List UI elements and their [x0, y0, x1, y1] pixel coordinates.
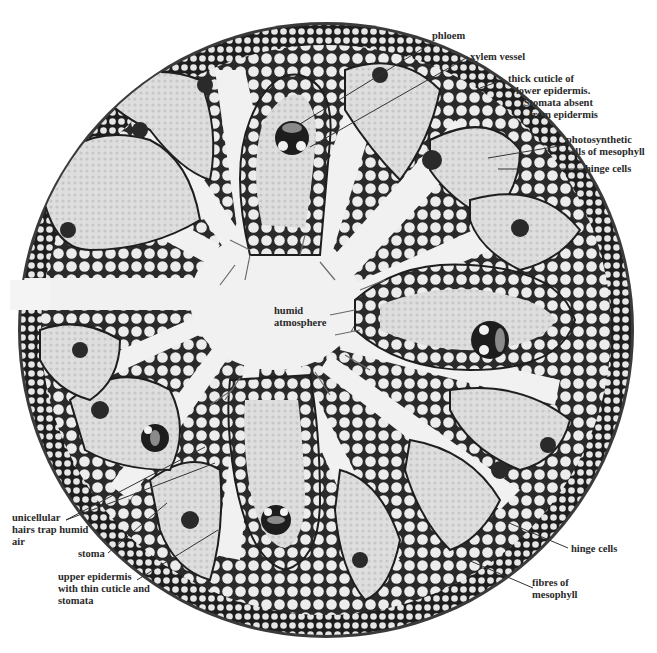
label-unicellular-hairs: unicellular hairs trap humid air	[12, 512, 88, 548]
label-upper-epidermis: upper epidermis with thin cuticle and st…	[58, 571, 150, 607]
label-humid-atmosphere: humid atmosphere	[274, 305, 326, 329]
label-stoma: stoma	[78, 548, 105, 560]
label-hinge-cells-top: hinge cells	[585, 163, 631, 175]
label-photosynthetic-cells: photosynthetic cells of mesophyll	[566, 134, 645, 158]
label-hinge-cells-bottom: hinge cells	[571, 543, 617, 555]
vascular-bundle-right	[471, 321, 509, 359]
label-xylem-vessel: xylem vessel	[470, 51, 525, 63]
leaf-cross-section-figure: phloem xylem vessel thick cuticle of low…	[0, 0, 657, 653]
label-thick-cuticle: thick cuticle of lower epidermis. Stomat…	[508, 73, 598, 121]
vascular-bundle-top	[275, 121, 309, 155]
label-fibres-of-mesophyll: fibres of mesophyll	[532, 577, 578, 601]
vascular-bundle-bottom	[261, 505, 291, 535]
leaf-margin-gap	[10, 280, 50, 310]
label-phloem: phloem	[432, 30, 465, 42]
vascular-bundle-left	[141, 424, 169, 452]
